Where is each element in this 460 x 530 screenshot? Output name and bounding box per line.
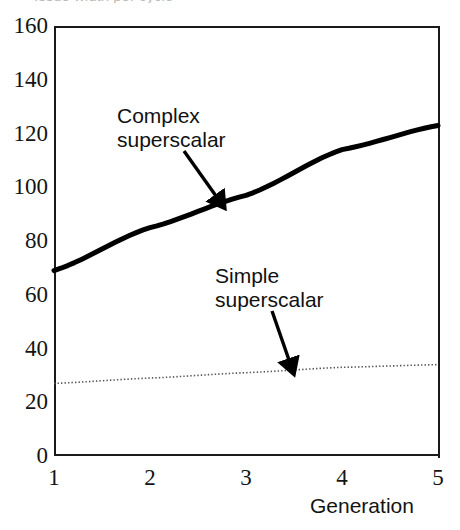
x-axis-title: Generation [310, 494, 414, 518]
chart-figure: Issue width per cycle 160140120100806040… [0, 0, 460, 530]
x-axis-tick-label: 5 [418, 466, 458, 489]
y-axis-tick-label: 160 [0, 14, 48, 37]
x-axis-tick-label: 3 [226, 466, 266, 489]
y-axis-tick-label: 20 [0, 390, 48, 413]
annotation-label-simple-superscalar: Simple superscalar [215, 264, 324, 311]
chart-title-remnant: Issue width per cycle [34, 0, 244, 3]
y-axis-tick-label: 100 [0, 175, 48, 198]
x-axis-tick-label: 4 [322, 466, 362, 489]
y-axis-tick-labels: 160140120100806040200 [0, 0, 48, 530]
y-axis-tick-label: 120 [0, 122, 48, 145]
y-axis-tick-label: 80 [0, 229, 48, 252]
y-axis-tick-label: 0 [0, 444, 48, 467]
x-axis-tick-label: 1 [34, 466, 74, 489]
y-axis-tick-label: 60 [0, 283, 48, 306]
y-axis-tick-label: 40 [0, 337, 48, 360]
plot-frame-top [54, 26, 440, 28]
plot-frame-right [438, 26, 440, 458]
y-axis-tick-label: 140 [0, 68, 48, 91]
annotation-label-complex-superscalar: Complex superscalar [117, 104, 226, 151]
x-axis-tick-label: 2 [130, 466, 170, 489]
plot-area-frame [54, 26, 438, 456]
